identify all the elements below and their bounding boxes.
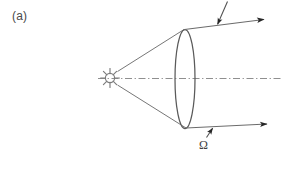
exit-ray-upper (185, 19, 265, 29)
figure-panel-a: (a) Ω (0, 0, 282, 177)
optical-diagram-canvas (0, 0, 282, 177)
panel-label: (a) (12, 9, 27, 23)
exit-ray-lower (186, 124, 267, 128)
cone-ray-upper (118, 30, 185, 72)
leader-arrow-solid-angle (207, 128, 213, 137)
leader-arrow-upper-ray (218, 2, 228, 25)
solid-angle-label: Ω (199, 138, 208, 152)
point-source-star-icon (101, 69, 120, 88)
